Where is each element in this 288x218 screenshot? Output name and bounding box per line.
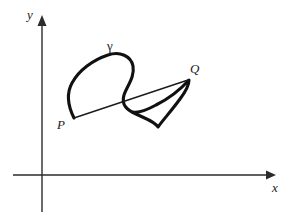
curve-diagram — [0, 0, 288, 218]
gamma-curve-path — [68, 54, 189, 127]
gamma-curve-label: γ — [107, 39, 113, 52]
point-q-label: Q — [190, 62, 199, 75]
figure-container: y x γ P Q — [0, 0, 288, 218]
y-axis-label: y — [27, 8, 33, 21]
x-axis-label: x — [272, 181, 278, 194]
x-axis-arrowhead — [266, 171, 276, 180]
y-axis-arrowhead — [38, 15, 47, 26]
point-p-label: P — [57, 118, 65, 131]
